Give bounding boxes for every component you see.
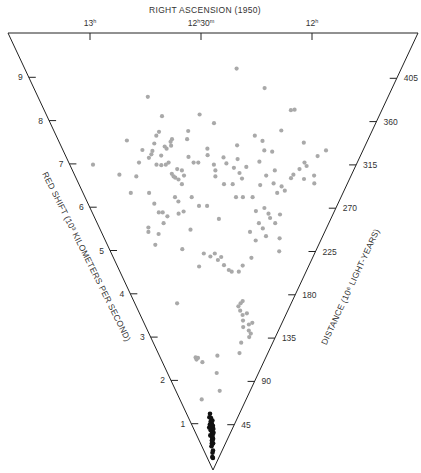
galaxy-point bbox=[208, 254, 212, 258]
galaxy-point bbox=[245, 311, 249, 315]
galaxy-point bbox=[196, 356, 200, 360]
galaxy-point bbox=[241, 264, 245, 268]
galaxy-point bbox=[212, 121, 216, 125]
galaxy-point bbox=[324, 148, 328, 152]
galaxy-point bbox=[137, 161, 141, 165]
galaxy-point bbox=[273, 221, 277, 225]
galaxy-point bbox=[147, 191, 151, 195]
galaxy-point bbox=[125, 138, 129, 142]
distance-tick-label: 405 bbox=[404, 73, 418, 83]
galaxy-point bbox=[219, 255, 223, 259]
galaxy-point bbox=[221, 155, 225, 159]
galaxy-point bbox=[241, 299, 245, 303]
redshift-axis-ticks: 123456789 bbox=[18, 72, 198, 428]
galaxy-point bbox=[205, 204, 209, 208]
galaxy-point bbox=[293, 108, 297, 112]
galaxy-point bbox=[175, 301, 179, 305]
left-edge bbox=[8, 33, 213, 470]
galaxy-point bbox=[146, 230, 150, 234]
galaxy-point bbox=[312, 181, 316, 185]
galaxy-point bbox=[251, 195, 255, 199]
redshift-tick-label: 1 bbox=[181, 419, 186, 429]
galaxy-point bbox=[258, 183, 262, 187]
galaxy-point bbox=[238, 309, 242, 313]
galaxy-point bbox=[206, 153, 210, 157]
galaxy-point bbox=[212, 163, 216, 167]
galaxy-point bbox=[237, 351, 241, 355]
ra-tick-label: 13h bbox=[84, 18, 97, 28]
galaxy-point bbox=[224, 161, 228, 165]
ra-tick-label: 12h30m bbox=[188, 18, 215, 28]
galaxy-point bbox=[134, 174, 138, 178]
galaxy-point bbox=[205, 147, 209, 151]
galaxy-point bbox=[170, 172, 174, 176]
galaxy-point bbox=[216, 258, 220, 262]
galaxy-point bbox=[257, 160, 261, 164]
redshift-tick-label: 6 bbox=[79, 202, 84, 212]
galaxy-point bbox=[210, 418, 215, 423]
galaxy-point bbox=[254, 209, 258, 213]
ra-tick-label: 12h bbox=[306, 18, 319, 28]
distance-axis-ticks: 4590135180225270315360405 bbox=[227, 73, 418, 429]
galaxy-point bbox=[186, 129, 190, 133]
galaxy-point bbox=[262, 148, 266, 152]
galaxy-point bbox=[253, 134, 257, 138]
galaxy-point bbox=[157, 210, 161, 214]
galaxy-point bbox=[209, 423, 214, 428]
galaxy-point bbox=[275, 191, 279, 195]
galaxy-point bbox=[169, 140, 173, 144]
galaxy-point bbox=[169, 144, 173, 148]
galaxy-point bbox=[202, 251, 206, 255]
galaxy-point bbox=[278, 212, 282, 216]
galaxy-point bbox=[217, 217, 221, 221]
galaxy-point bbox=[297, 167, 301, 171]
galaxy-point bbox=[200, 360, 204, 364]
virgo-cluster-series bbox=[207, 411, 216, 460]
galaxy-point bbox=[266, 212, 270, 216]
galaxy-point bbox=[182, 209, 186, 213]
galaxy-point bbox=[159, 154, 163, 158]
galaxy-point bbox=[154, 134, 158, 138]
galaxy-point bbox=[182, 174, 186, 178]
redshift-tick-label: 4 bbox=[120, 289, 125, 299]
galaxy-point bbox=[241, 195, 245, 199]
galaxy-point bbox=[160, 114, 164, 118]
galaxy-point bbox=[159, 163, 163, 167]
galaxy-point bbox=[237, 171, 241, 175]
distance-tick-label: 315 bbox=[363, 160, 377, 170]
distance-tick-label: 90 bbox=[262, 376, 272, 386]
distant-galaxies-series bbox=[91, 67, 328, 402]
galaxy-point bbox=[190, 195, 194, 199]
galaxy-point bbox=[213, 251, 217, 255]
galaxy-point bbox=[140, 148, 144, 152]
galaxy-point bbox=[154, 163, 158, 167]
galaxy-point bbox=[283, 189, 287, 193]
galaxy-point bbox=[161, 210, 165, 214]
galaxy-point bbox=[247, 335, 251, 339]
redshift-tick-label: 8 bbox=[38, 116, 43, 126]
galaxy-point bbox=[215, 371, 219, 375]
galaxy-point bbox=[264, 234, 268, 238]
galaxy-point bbox=[254, 238, 258, 242]
galaxy-point bbox=[231, 182, 235, 186]
galaxy-point bbox=[302, 141, 306, 145]
galaxy-point bbox=[277, 249, 281, 253]
galaxy-point bbox=[279, 128, 283, 132]
galaxy-point bbox=[241, 313, 245, 317]
redshift-tick-label: 7 bbox=[59, 159, 64, 169]
galaxy-point bbox=[237, 270, 241, 274]
galaxy-point bbox=[180, 182, 184, 186]
galaxy-point bbox=[196, 161, 200, 165]
galaxy-point bbox=[249, 256, 253, 260]
galaxy-point bbox=[235, 143, 239, 147]
galaxy-point bbox=[180, 247, 184, 251]
galaxy-point bbox=[162, 221, 166, 225]
galaxy-point bbox=[129, 191, 133, 195]
galaxy-point bbox=[152, 141, 156, 145]
galaxy-wedge-chart: 13h12h30m12h 123456789 45901351802252703… bbox=[0, 0, 421, 473]
galaxy-point bbox=[234, 195, 238, 199]
galaxy-point bbox=[186, 155, 190, 159]
galaxy-point bbox=[222, 182, 226, 186]
galaxy-points bbox=[91, 67, 328, 461]
distance-tick-label: 45 bbox=[241, 420, 251, 430]
